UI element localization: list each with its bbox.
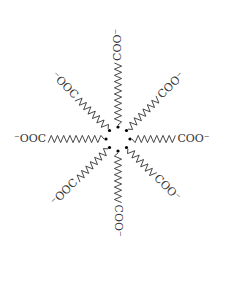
hydrocarbon-chain [128,149,157,176]
chain-up: COO⁻ [111,29,124,129]
chain-down-right: COO⁻ [125,146,184,204]
hydrocarbon-chain [48,135,104,142]
hydrocarbon-chain [128,96,159,130]
chain-head-dot [116,149,119,152]
carboxylate-label: ⁻OOC [48,176,80,208]
micelle-diagram: COO⁻COO⁻COO⁻COO⁻COO⁻⁻OOC⁻OOC⁻OOC [0,0,244,287]
carboxylate-label: COO⁻ [151,172,183,204]
hydrocarbon-chain [114,63,121,125]
hydrocarbon-chain [77,149,108,183]
carboxylate-label: COO⁻ [177,132,209,145]
chain-left: ⁻OOC [14,132,108,145]
hydrocarbon-chain [114,153,121,203]
chain-head-dot [128,137,131,140]
micelle-svg: COO⁻COO⁻COO⁻COO⁻COO⁻⁻OOC⁻OOC⁻OOC [0,0,244,287]
chain-head-dot [108,129,111,132]
chain-head-dot [125,129,128,132]
hydrocarbon-chain [132,135,175,142]
chain-down: COO⁻ [112,149,125,237]
chain-up-left: ⁻OOC [49,69,111,132]
carboxylate-label: COO⁻ [111,29,124,61]
hydrocarbon-chain [75,98,109,129]
carboxylate-label: ⁻OOC [14,132,46,145]
carboxylate-label: COO⁻ [155,69,187,101]
chain-head-dot [108,146,111,149]
carboxylate-label: COO⁻ [112,205,125,237]
chain-head-dot [116,125,119,128]
carboxylate-label: ⁻OOC [49,69,81,101]
chain-head-dot [125,146,128,149]
chain-right: COO⁻ [128,132,209,145]
chain-up-right: COO⁻ [125,69,187,132]
chain-down-left: ⁻OOC [48,146,111,208]
chain-head-dot [104,137,107,140]
